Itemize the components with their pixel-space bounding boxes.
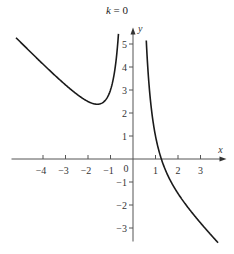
y-tick-label: 2 <box>122 108 127 119</box>
y-tick-label: −3 <box>116 223 127 234</box>
y-tick-label: −1 <box>116 177 127 188</box>
x-axis-arrow-icon <box>220 157 227 162</box>
y-tick-label: 3 <box>122 85 127 96</box>
curves <box>16 34 218 243</box>
y-tick-label: −2 <box>116 200 127 211</box>
x-tick-label: 1 <box>153 165 158 176</box>
y-tick-label: 1 <box>122 131 127 142</box>
x-tick-label: −4 <box>36 165 47 176</box>
x-axis-label: x <box>217 144 223 155</box>
curve-left-branch <box>16 34 118 104</box>
x-tick-label: −1 <box>103 165 114 176</box>
y-tick-label: 4 <box>122 62 127 73</box>
axis-labels: −4−3−2−1123−3−2−1123450xy <box>36 23 224 234</box>
curve-right-branch <box>146 40 218 242</box>
x-tick-label: −2 <box>81 165 92 176</box>
y-tick-label: 5 <box>122 39 127 50</box>
y-axis-label: y <box>137 23 143 34</box>
chart-canvas: −4−3−2−1123−3−2−1123450xy <box>0 0 234 254</box>
x-tick-label: 3 <box>198 165 203 176</box>
y-axis-arrow-icon <box>131 28 136 35</box>
x-tick-label: −3 <box>58 165 69 176</box>
origin-label: 0 <box>124 163 129 174</box>
x-tick-label: 2 <box>176 165 181 176</box>
